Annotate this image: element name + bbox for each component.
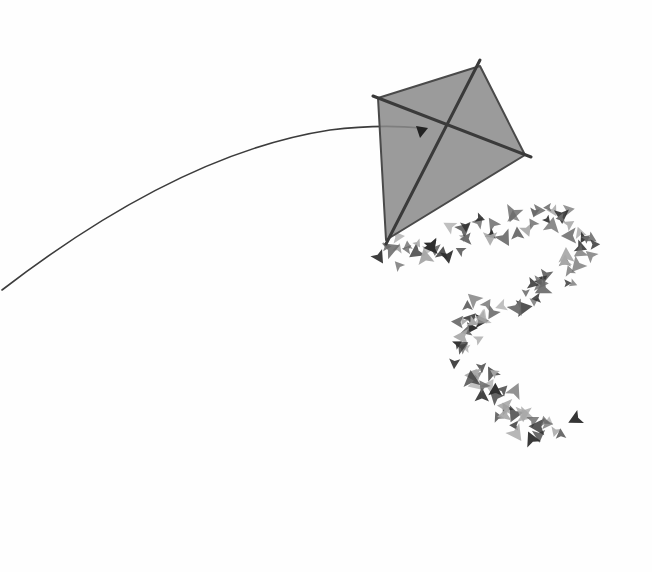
kite-painting: [0, 0, 652, 572]
background: [0, 0, 652, 572]
